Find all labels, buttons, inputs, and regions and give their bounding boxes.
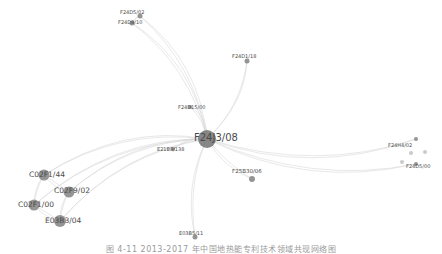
graph-node[interactable] bbox=[249, 176, 255, 182]
graph-edge bbox=[207, 61, 247, 139]
node-label: E03B3/04 bbox=[45, 217, 81, 225]
graph-edge bbox=[207, 139, 416, 158]
graph-edge bbox=[60, 139, 207, 221]
graph-node[interactable] bbox=[414, 137, 418, 141]
figure-caption: 图 4-11 2013-2017 年中国地热能专利技术领域共现网络图 bbox=[0, 243, 442, 254]
graph-edge bbox=[207, 61, 247, 139]
graph-edge bbox=[69, 139, 207, 192]
node-label: F24H4/02 bbox=[388, 143, 412, 148]
node-label: F24J3/08 bbox=[194, 133, 238, 143]
graph-node[interactable] bbox=[409, 151, 413, 155]
graph-edge bbox=[132, 23, 207, 139]
edge-layer bbox=[34, 16, 416, 237]
node-layer bbox=[29, 14, 428, 240]
node-label: E03B5/11 bbox=[179, 231, 203, 236]
graph-edge bbox=[69, 139, 207, 192]
graph-edge bbox=[140, 16, 207, 139]
graph-edge bbox=[207, 139, 416, 171]
network-graph bbox=[0, 0, 442, 240]
node-label: F24D5/00 bbox=[406, 164, 430, 169]
node-label: C02F9/02 bbox=[54, 187, 90, 195]
node-label: F24D9/10 bbox=[118, 20, 142, 25]
graph-edge bbox=[60, 139, 207, 221]
node-label: C02F1/44 bbox=[29, 171, 65, 179]
graph-node[interactable] bbox=[423, 150, 427, 154]
node-label: C02F1/00 bbox=[18, 201, 54, 209]
graph-node[interactable] bbox=[400, 160, 404, 164]
graph-edge bbox=[193, 139, 207, 237]
node-label: F24D15/00 bbox=[178, 105, 206, 110]
node-label: F24D1/18 bbox=[232, 54, 256, 59]
graph-edge bbox=[132, 23, 207, 139]
graph-edge bbox=[140, 16, 207, 139]
node-label: E21B8/138 bbox=[157, 147, 184, 152]
graph-node[interactable] bbox=[245, 59, 250, 64]
node-label: F25B30/06 bbox=[232, 169, 262, 175]
node-label: F24D5/02 bbox=[120, 10, 144, 15]
graph-edge bbox=[207, 139, 416, 156]
